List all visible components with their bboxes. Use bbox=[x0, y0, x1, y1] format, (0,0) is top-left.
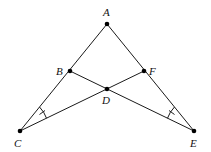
label-B: B bbox=[56, 65, 63, 77]
segment-FC bbox=[20, 71, 144, 131]
label-A: A bbox=[102, 6, 110, 18]
point-D bbox=[105, 87, 110, 92]
point-A bbox=[105, 22, 110, 27]
point-C bbox=[18, 129, 23, 134]
label-E: E bbox=[189, 137, 197, 149]
angle-mark-E bbox=[168, 107, 175, 118]
segment-AE bbox=[107, 24, 194, 131]
label-F: F bbox=[148, 65, 156, 77]
segment-BE bbox=[70, 71, 194, 131]
point-E bbox=[192, 129, 197, 134]
point-B bbox=[68, 69, 73, 74]
geometry-diagram: A B F D C E bbox=[0, 0, 211, 152]
label-C: C bbox=[14, 137, 22, 149]
segment-AC bbox=[20, 24, 107, 131]
angle-mark-C bbox=[40, 107, 47, 118]
label-D: D bbox=[101, 94, 110, 106]
point-F bbox=[142, 69, 147, 74]
